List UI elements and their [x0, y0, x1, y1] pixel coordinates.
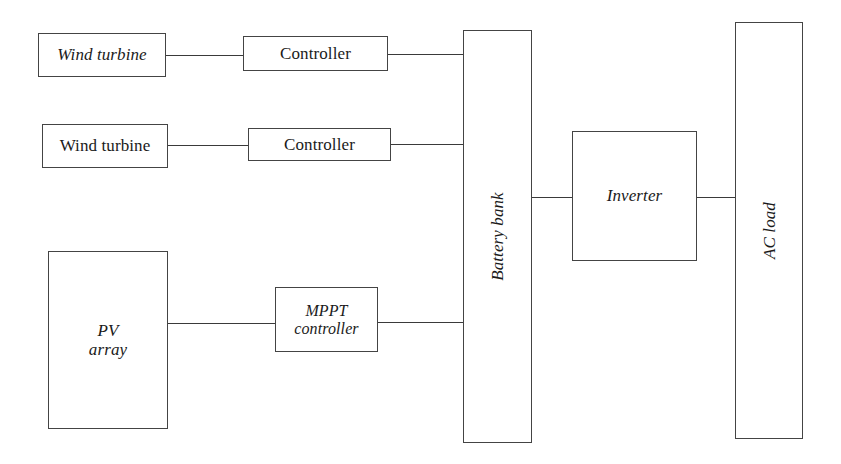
block-controller-1: Controller	[243, 36, 388, 71]
block-diagram-canvas: Wind turbine Controller Wind turbine Con…	[0, 0, 841, 464]
block-controller-2-label: Controller	[284, 135, 355, 154]
block-controller-1-label: Controller	[280, 44, 351, 63]
connector-wind-turbine-2-to-controller-2	[167, 145, 249, 146]
block-wind-turbine-1-label: Wind turbine	[57, 45, 147, 64]
block-wind-turbine-2-label: Wind turbine	[60, 136, 151, 155]
block-inverter-label: Inverter	[607, 186, 663, 205]
connector-battery-bank-to-inverter	[531, 197, 573, 198]
connector-controller-1-to-battery-bank	[387, 54, 464, 55]
connector-inverter-to-ac-load	[696, 197, 736, 198]
block-pv-array-label: PV array	[89, 321, 127, 359]
block-pv-array: PV array	[48, 251, 168, 429]
block-battery-bank-label: Battery bank	[488, 192, 507, 281]
connector-controller-2-to-battery-bank	[390, 144, 464, 145]
block-controller-2: Controller	[248, 128, 391, 161]
block-ac-load: AC load	[735, 22, 803, 439]
connector-wind-turbine-1-to-controller-1	[165, 55, 244, 56]
block-mppt-controller-label: MPPT controller	[294, 302, 358, 338]
connector-pv-array-to-mppt-controller	[167, 323, 276, 324]
block-inverter: Inverter	[572, 131, 697, 261]
block-mppt-controller: MPPT controller	[275, 287, 378, 352]
block-wind-turbine-1: Wind turbine	[38, 33, 166, 77]
block-battery-bank: Battery bank	[463, 30, 532, 443]
connector-mppt-controller-to-battery-bank	[377, 322, 464, 323]
block-ac-load-label: AC load	[759, 202, 778, 259]
block-wind-turbine-2: Wind turbine	[42, 124, 168, 168]
